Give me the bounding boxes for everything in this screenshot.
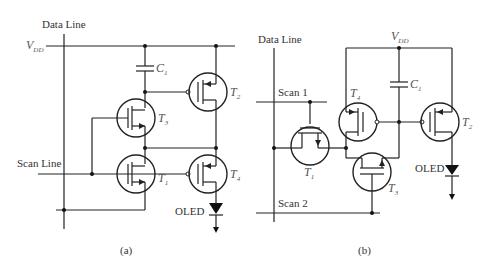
c1-label-a: C1	[156, 61, 168, 77]
oled-b: OLED	[415, 162, 459, 200]
transistor-t2-a: T2	[189, 46, 241, 148]
t1-label-b: T1	[304, 165, 314, 181]
t4-label-b: T4	[350, 86, 361, 102]
t2-label-b: T2	[462, 115, 473, 131]
transistor-t2-b: T2	[420, 103, 473, 165]
scan1-label-b: Scan 1	[278, 86, 308, 98]
transistor-t1-b: T1	[274, 127, 346, 181]
transistor-t3-b: T3	[346, 122, 399, 213]
t3-label-b: T3	[388, 181, 399, 197]
t4-label-a: T4	[230, 167, 241, 183]
data-line-label-a: Data Line	[42, 18, 86, 30]
caption-a: (a)	[120, 244, 133, 257]
oled-a: OLED	[175, 203, 223, 233]
panel-a: Data Line VDD C1 T2	[17, 18, 241, 257]
svg-text:OLED: OLED	[415, 162, 444, 174]
circuit-diagrams: Data Line VDD C1 T2	[0, 0, 490, 274]
panel-b: Data Line VDD C1 Scan 1 T1	[256, 29, 473, 257]
transistor-t3-a: T3	[92, 92, 169, 174]
scan2-label-b: Scan 2	[278, 197, 308, 209]
data-line-label-b: Data Line	[258, 33, 302, 45]
vdd-label-a: VDD	[26, 38, 43, 54]
transistor-t4-b: T4	[339, 86, 420, 158]
c1-label-b: C1	[410, 77, 422, 93]
caption-b: (b)	[358, 244, 371, 257]
t3-label-a: T3	[158, 111, 169, 127]
vdd-label-b: VDD	[391, 29, 408, 45]
transistor-t4-a: T4	[189, 148, 241, 203]
transistor-t1-a: T1	[117, 148, 168, 210]
scan-line-label-a: Scan Line	[17, 157, 61, 169]
t2-label-a: T2	[230, 85, 241, 101]
svg-text:OLED: OLED	[175, 205, 204, 217]
